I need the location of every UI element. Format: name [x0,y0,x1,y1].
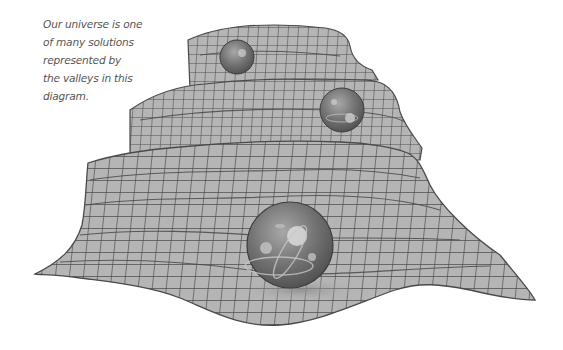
top-sphere [220,40,254,74]
middle-sphere [320,88,364,132]
landscape-diagram [0,0,563,350]
